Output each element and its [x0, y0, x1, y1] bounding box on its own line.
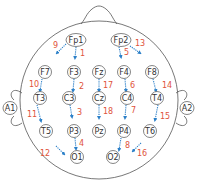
electrode-label: A2: [182, 104, 193, 113]
channel-8: 8: [119, 138, 130, 150]
electrode-a1[interactable]: A1: [3, 102, 17, 115]
channel-number: 17: [103, 81, 113, 90]
channel-arrow-icon: [155, 105, 158, 120]
electrode-label: T6: [144, 127, 155, 136]
electrode-label: Cz: [94, 94, 104, 103]
electrode-f7[interactable]: F7: [39, 66, 52, 79]
electrode-t6[interactable]: T6: [144, 125, 157, 138]
channel-arrow-icon: [73, 79, 74, 91]
channel-arrow-icon: [75, 47, 76, 58]
electrode-label: Fp2: [114, 36, 129, 45]
channel-number: 15: [160, 112, 170, 121]
electrode-f3[interactable]: F3: [68, 66, 81, 79]
channel-arrow-icon: [57, 44, 66, 53]
channel-arrow-icon: [119, 138, 121, 150]
channel-arrow-icon: [153, 79, 156, 91]
electrode-p3[interactable]: P3: [68, 125, 81, 138]
channel-9: 9: [53, 41, 66, 54]
channel-12: 12: [40, 146, 64, 158]
channel-arrow-icon: [75, 138, 76, 149]
channel-number: 5: [124, 48, 129, 57]
channel-arrow-icon: [70, 105, 72, 117]
channel-17: 17: [99, 79, 113, 91]
channel-number: 4: [79, 139, 84, 148]
channel-number: 1: [80, 49, 85, 58]
electrode-label: C3: [64, 94, 75, 103]
channel-number: 12: [40, 149, 50, 158]
channel-6: 6: [125, 79, 135, 91]
channel-15: 15: [155, 105, 170, 121]
channel-number: 9: [53, 41, 58, 50]
electrode-label: T5: [40, 127, 51, 136]
channel-number: 2: [79, 82, 84, 91]
electrode-fp2[interactable]: Fp2: [111, 34, 131, 47]
electrode-o2[interactable]: O2: [107, 151, 120, 164]
channel-1: 1: [75, 47, 85, 58]
electrode-label: F3: [69, 68, 79, 77]
channel-number: 16: [137, 149, 147, 158]
electrode-label: A1: [5, 104, 16, 113]
channel-3: 3: [70, 105, 82, 117]
channel-10: 10: [29, 79, 42, 91]
channel-number: 11: [27, 110, 37, 119]
channel-4: 4: [75, 138, 84, 149]
channel-number: 6: [130, 81, 135, 90]
electrode-label: F8: [147, 68, 157, 77]
eeg-montage-diagram: 123456789101112131415161718 Fp1Fp2F7F3Fz…: [0, 0, 198, 183]
channel-11: 11: [27, 105, 41, 121]
channel-2: 2: [73, 79, 84, 91]
channel-16: 16: [133, 143, 147, 158]
electrode-label: P3: [69, 127, 79, 136]
electrode-t4[interactable]: T4: [151, 92, 164, 105]
electrode-f4[interactable]: F4: [118, 66, 131, 79]
channel-18: 18: [99, 105, 113, 118]
electrode-label: F7: [40, 68, 50, 77]
channel-7: 7: [125, 105, 136, 118]
channel-arrow-icon: [40, 79, 42, 91]
electrode-c4[interactable]: C4: [121, 92, 134, 105]
channel-arrow-icon: [119, 47, 121, 57]
electrode-label: T4: [151, 94, 162, 103]
channel-arrow-icon: [125, 105, 126, 118]
electrode-p4[interactable]: P4: [118, 125, 131, 138]
electrode-label: Pz: [94, 127, 103, 136]
channel-number: 13: [135, 39, 145, 48]
electrode-a2[interactable]: A2: [180, 102, 194, 115]
electrode-c3[interactable]: C3: [63, 92, 76, 105]
electrode-label: T3: [34, 94, 45, 103]
electrode-label: P4: [119, 127, 129, 136]
electrode-label: C4: [122, 94, 133, 103]
electrode-fp1[interactable]: Fp1: [66, 34, 86, 47]
electrode-label: Fp1: [69, 36, 84, 45]
channel-number: 3: [77, 108, 82, 117]
channel-number: 7: [131, 106, 136, 115]
electrode-cz[interactable]: Cz: [93, 92, 106, 105]
channel-number: 14: [162, 81, 172, 90]
electrode-label: O2: [107, 153, 118, 162]
channel-number: 8: [125, 141, 130, 150]
electrode-fz[interactable]: Fz: [93, 66, 106, 79]
electrode-pz[interactable]: Pz: [93, 125, 106, 138]
electrodes: Fp1Fp2F7F3FzF4F8T3C3CzC4T4T5P3PzP4T6O1O2: [34, 34, 164, 164]
channel-arrow-icon: [56, 146, 64, 154]
electrode-label: O1: [71, 153, 82, 162]
electrode-t5[interactable]: T5: [40, 125, 53, 138]
electrode-f8[interactable]: F8: [146, 66, 159, 79]
electrode-o1[interactable]: O1: [71, 151, 84, 164]
electrode-label: Fz: [95, 68, 104, 77]
channel-5: 5: [119, 47, 129, 57]
electrode-label: F4: [119, 68, 129, 77]
channel-arrow-icon: [125, 79, 126, 91]
electrode-t3[interactable]: T3: [34, 92, 47, 105]
channel-number: 10: [29, 80, 39, 89]
channel-13: 13: [130, 39, 145, 54]
channel-number: 18: [103, 107, 113, 116]
channel-14: 14: [153, 79, 172, 91]
channel-arrow-icon: [37, 105, 41, 121]
